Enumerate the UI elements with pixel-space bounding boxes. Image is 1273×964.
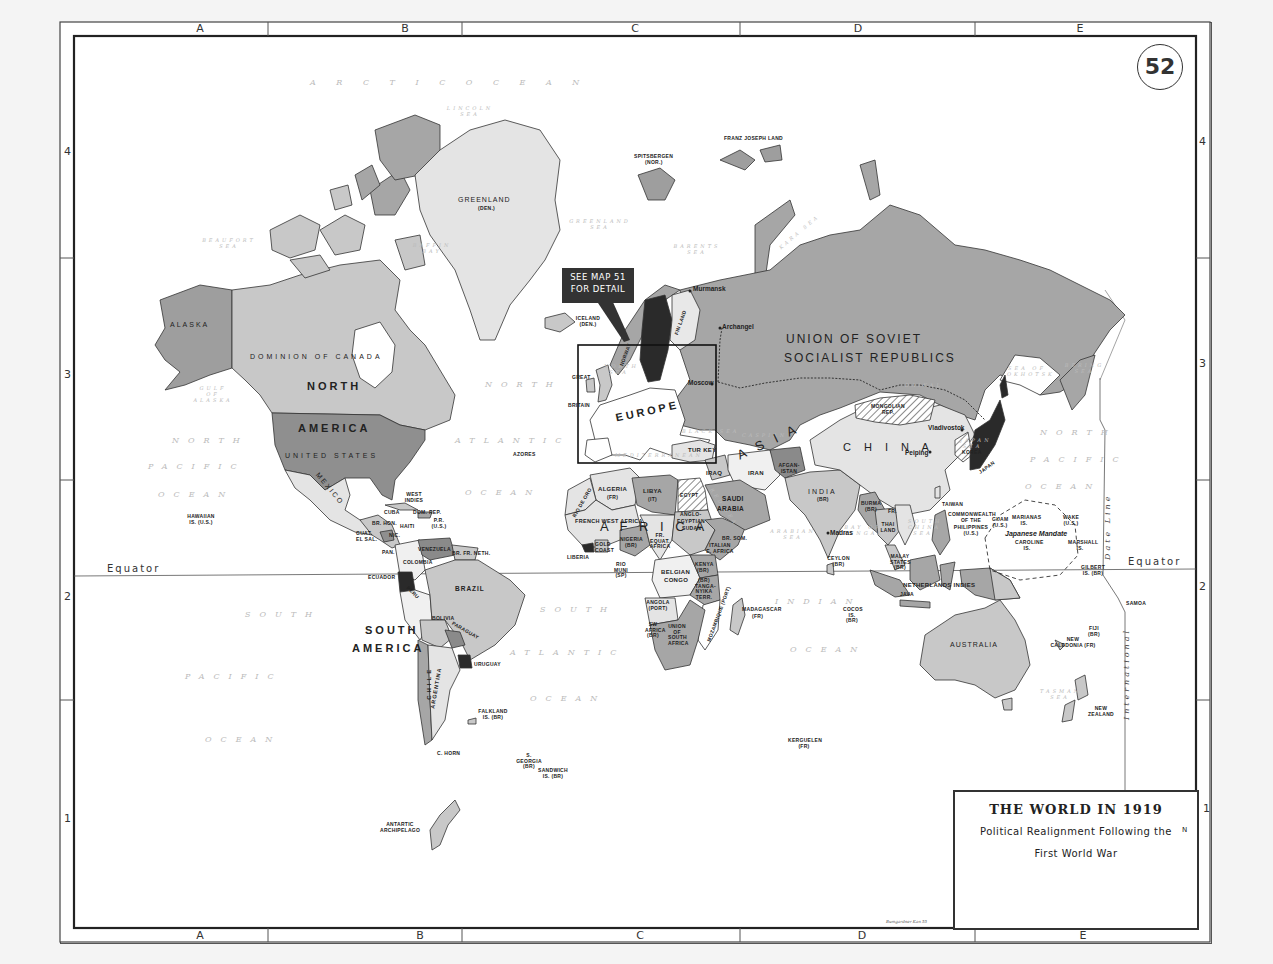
baffin-bay-label: BAFFIN BAY: [412, 242, 452, 254]
grid-col-a-bottom: A: [180, 929, 220, 942]
indian-ocean-label-1: INDIAN: [775, 597, 862, 606]
new-zealand-label: NEW ZEALAND: [1086, 706, 1116, 717]
north-pacific-west-label-2: PACIFIC: [148, 462, 246, 471]
colombia-label: COLOMBIA: [403, 560, 433, 566]
franz-josef-land-label: FRANZ JOSEPH LAND: [724, 136, 783, 142]
philippines-label-1: COMMONWEALTH OF THE: [948, 512, 994, 523]
black-sea-label: BLACK SEA: [682, 428, 712, 434]
fr-indochina-label: FR.: [888, 509, 897, 515]
alaska-label: ALASKA: [170, 321, 209, 329]
japan-sea-label: JAPAN SEA: [960, 437, 985, 449]
mediterranean-label: MEDITERRANEAN: [615, 452, 675, 458]
uruguay-label: URUGUAY: [474, 662, 501, 668]
north-pacific-west-label-3: OCEAN: [158, 490, 234, 499]
guam-label: GUAM (U.S.): [992, 517, 1008, 528]
canada-label: DOMINION OF CANADA: [250, 353, 383, 361]
liberia-label: LIBERIA: [567, 555, 589, 561]
brazil-label: BRAZIL: [455, 585, 485, 592]
baikal-label: BAIKAL: [905, 382, 935, 388]
callout-line1: SEE MAP 51: [562, 271, 634, 283]
philippines-label-2: PHILIPPINES (U.S.): [948, 525, 994, 536]
venezuela-label: VENEZUELA: [418, 547, 451, 553]
spitsbergen-owner-label: (NOR.): [645, 160, 663, 166]
map-subtitle-line2: First World War: [955, 848, 1197, 859]
grid-col-d-bottom: D: [842, 929, 882, 942]
south-atlantic-label-3: OCEAN: [530, 694, 606, 703]
north-america-label-2: AMERICA: [298, 422, 370, 434]
greenland-label: GREENLAND: [458, 196, 511, 204]
date-line-label: Date Line: [1103, 494, 1112, 560]
north-pacific-west-label-1: NORTH: [172, 436, 249, 445]
sw-africa-label: SW AFRICA (BR): [645, 622, 661, 639]
falkland-label: FALKLAND IS. (BR): [478, 709, 508, 720]
grid-col-a-top: A: [180, 22, 220, 35]
grid-col-c-top: C: [615, 22, 655, 35]
grid-row-2-left: 2: [64, 590, 71, 603]
ceylon-label: CEYLON (BR): [826, 556, 851, 567]
grid-col-d-top: D: [838, 22, 878, 35]
west-indies-label: WEST INDIES: [403, 492, 425, 503]
city-madras: Madras: [830, 529, 853, 536]
french-west-africa-label: FRENCH WEST AFRICA: [575, 518, 643, 524]
caroline-label: CAROLINE IS.: [1015, 540, 1039, 551]
java-label: JAVA: [900, 592, 914, 598]
belgian-congo-label-1: BELGIAN: [661, 569, 690, 576]
south-china-sea-label: SOUTH CHINA SEA: [908, 518, 938, 536]
south-america-label-1: SOUTH: [365, 624, 419, 636]
land-taiwan: [935, 486, 940, 498]
sandwich-label: SANDWICH IS. (BR): [538, 768, 568, 779]
grid-row-4-left: 4: [64, 145, 71, 158]
afghanistan-label: AFGAN- ISTAN: [776, 463, 802, 474]
city-archangel: Archangel: [722, 323, 754, 330]
ussr-label-1: UNION OF SOVIET: [786, 333, 922, 346]
iceland-label: ICELAND (DEN.): [573, 316, 603, 327]
algeria-owner-label: (FR): [607, 495, 618, 501]
grid-col-e-bottom: E: [1063, 929, 1103, 942]
grid-row-2-right: 2: [1199, 580, 1206, 593]
grid-col-c-bottom: C: [620, 929, 660, 942]
north-atlantic-label-1: NORTH: [485, 380, 562, 389]
south-america-label-2: AMERICA: [352, 642, 424, 654]
libya-owner-label: (IT): [648, 497, 657, 503]
greenland-sea-label: GREENLAND SEA: [568, 218, 632, 230]
samoa-label: SAMOA: [1126, 601, 1146, 607]
anglo-egyptian-label-1: ANGLO-: [680, 512, 702, 518]
cocos-label: COCOS IS. (BR): [843, 607, 861, 624]
city-murmansk: Murmansk: [693, 285, 726, 292]
union-south-africa-label: UNION OF SOUTH AFRICA: [668, 624, 686, 646]
south-pacific-west-label-2: PACIFIC: [185, 672, 283, 681]
saudi-label-2: ARABIA: [717, 505, 744, 512]
greenland-owner-label: (DEN.): [478, 206, 495, 212]
map-subtitle-line1: Political Realignment Following the: [955, 826, 1197, 837]
sea-of-okhotsk-label: SEA OF OKHOTSK: [1007, 365, 1047, 377]
tanganyika-label: (BR) TANGA- NYIKA TERR.: [695, 578, 713, 600]
north-arrow-icon: N: [1182, 826, 1187, 834]
north-atlantic-label-3: OCEAN: [465, 488, 541, 497]
north-america-label-1: NORTH: [307, 380, 361, 392]
grid-row-1-left: 1: [64, 812, 71, 825]
gold-coast-label: GOLD COAST: [595, 542, 609, 553]
great-britain-label-1: GREAT: [572, 375, 591, 381]
ussr-label-2: SOCIALIST REPUBLICS: [784, 352, 956, 365]
libya-label: LIBYA: [643, 488, 662, 495]
grid-row-3-right: 3: [1199, 357, 1206, 370]
land-uruguay: [458, 655, 472, 668]
belgian-congo-label-2: CONGO: [664, 577, 688, 584]
thailand-label: THAI LAND: [880, 522, 896, 533]
international-label: International: [1122, 628, 1131, 720]
cuba-label: CUBA: [384, 510, 400, 516]
kenya-label: KENYA (BR): [695, 562, 711, 573]
anglo-egyptian-label-2: EGYPTIAN: [677, 519, 705, 525]
el-salvador-label: EL SAL.: [356, 537, 377, 543]
lincoln-sea-label: LINCOLN SEA: [445, 105, 495, 117]
nicaragua-label: NIC.: [389, 533, 400, 539]
marianas-label: MARIANAS IS.: [1012, 515, 1036, 526]
indian-ocean-label-2: OCEAN: [790, 645, 866, 654]
iraq-label: IRAQ: [706, 470, 722, 477]
fr-equat-africa-label: FR. EQUAT. AFRICA: [648, 533, 672, 550]
callout-line2: FOR DETAIL: [562, 283, 634, 295]
north-pacific-east-label-3: OCEAN: [1025, 482, 1101, 491]
algeria-label: ALGERIA: [598, 486, 627, 493]
bolivia-label: BOLIVIA: [432, 616, 454, 622]
puerto-rico-label: P.R. (U.S.): [430, 518, 448, 529]
